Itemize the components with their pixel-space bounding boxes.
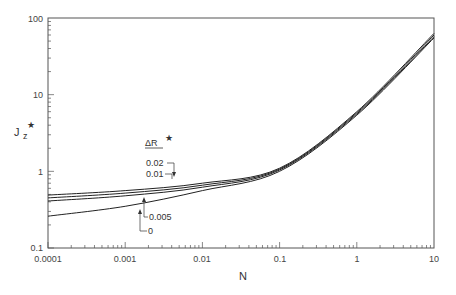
arrow-icon bbox=[172, 172, 176, 177]
legend-title: ΔR bbox=[145, 138, 158, 148]
annotation-label: 0.01 bbox=[146, 169, 164, 179]
y-tick-label: 100 bbox=[28, 14, 43, 24]
star-icon: ★ bbox=[27, 120, 35, 130]
plot-frame bbox=[48, 18, 434, 248]
x-tick-label: 0.001 bbox=[114, 254, 137, 264]
star-icon: ★ bbox=[165, 133, 173, 143]
data-curves bbox=[48, 33, 434, 216]
series-curve-0.02 bbox=[48, 33, 434, 195]
axis-ticks bbox=[48, 22, 430, 248]
series-curve-0 bbox=[48, 38, 434, 216]
arrow-icon bbox=[142, 197, 146, 202]
y-tick-label: 0.1 bbox=[30, 243, 43, 253]
annotation-label: 0.005 bbox=[149, 212, 172, 222]
y-tick-label: 1 bbox=[38, 167, 43, 177]
x-tick-label: 10 bbox=[429, 254, 439, 264]
series-curve-0.005 bbox=[48, 37, 434, 201]
y-axis-subscript: z bbox=[23, 131, 28, 141]
chart-canvas: 0.1 1 10 100 0.0001 0.001 0.01 0.1 1 10 … bbox=[0, 0, 456, 295]
x-tick-label: 0.01 bbox=[193, 254, 211, 264]
annotation-label: 0.02 bbox=[146, 158, 164, 168]
x-tick-label: 0.0001 bbox=[34, 254, 62, 264]
y-tick-label: 10 bbox=[33, 90, 43, 100]
x-tick-label: 0.1 bbox=[274, 254, 287, 264]
annotation-label: 0 bbox=[148, 226, 153, 236]
x-tick-label: 1 bbox=[354, 254, 359, 264]
annotation-leader bbox=[165, 174, 172, 179]
series-curve-0.01 bbox=[48, 35, 434, 198]
arrow-icon bbox=[138, 209, 142, 214]
y-axis-title: J bbox=[14, 126, 20, 138]
x-axis-title: N bbox=[239, 270, 247, 282]
